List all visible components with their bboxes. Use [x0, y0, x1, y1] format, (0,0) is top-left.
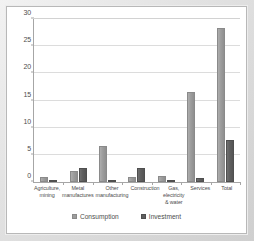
chart-legend: ConsumptionInvestment [7, 213, 246, 220]
bar-investment[interactable] [226, 140, 234, 182]
x-axis-label: Gas, electricity & water [160, 185, 187, 206]
bar-investment[interactable] [196, 178, 204, 182]
bar-investment[interactable] [137, 168, 145, 182]
bar-consumption[interactable] [158, 176, 166, 182]
y-tick-label: 10 [24, 117, 31, 124]
bar-investment[interactable] [79, 168, 87, 182]
bar-investment[interactable] [167, 180, 175, 182]
legend-entry[interactable]: Consumption [72, 213, 119, 220]
x-axis-label: Services [187, 185, 214, 206]
legend-entry[interactable]: Investment [141, 213, 181, 220]
y-tick-label: 25 [24, 36, 31, 43]
bar-consumption[interactable] [40, 177, 48, 182]
x-axis-label: Construction [129, 185, 160, 206]
figure-inner: 051015202530 Agriculture, miningMetal ma… [6, 6, 247, 234]
bar-group [93, 19, 122, 182]
x-tick-mark [240, 182, 241, 185]
bar-group [181, 19, 210, 182]
y-tick-label: 30 [24, 9, 31, 16]
bar-group [211, 19, 240, 182]
investment-swatch [141, 214, 146, 219]
x-axis-label: Other manufacturing [95, 185, 130, 206]
y-tick-label: 5 [27, 144, 31, 151]
y-tick-label: 20 [24, 63, 31, 70]
bars-layer [34, 19, 240, 182]
bar-consumption[interactable] [187, 92, 195, 182]
bar-consumption[interactable] [128, 177, 136, 182]
x-axis-label: Metal manufactures [61, 185, 94, 206]
bar-investment[interactable] [108, 180, 116, 182]
consumption-swatch [72, 214, 77, 219]
bar-consumption[interactable] [99, 146, 107, 182]
x-axis-label: Total [213, 185, 240, 206]
legend-label: Investment [149, 213, 181, 220]
figure-frame: 051015202530 Agriculture, miningMetal ma… [0, 0, 254, 241]
bar-consumption[interactable] [70, 171, 78, 182]
bar-group [122, 19, 151, 182]
bar-group [63, 19, 92, 182]
bar-group [34, 19, 63, 182]
bar-investment[interactable] [49, 180, 57, 182]
bar-consumption[interactable] [217, 28, 225, 182]
legend-label: Consumption [80, 213, 119, 220]
bar-group [152, 19, 181, 182]
y-tick-label: 15 [24, 90, 31, 97]
x-axis-labels: Agriculture, miningMetal manufacturesOth… [33, 185, 240, 206]
y-tick-label: 0 [27, 172, 31, 179]
x-axis-label: Agriculture, mining [33, 185, 61, 206]
plot-area: 051015202530 [33, 19, 240, 183]
